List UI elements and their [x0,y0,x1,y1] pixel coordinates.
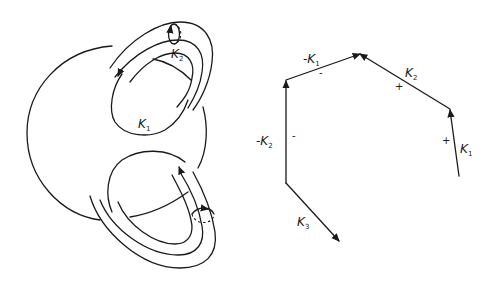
label-edge-k2: K2 [405,66,417,82]
lower-cross-curve [130,192,188,217]
k2-curve [153,59,191,80]
label-k1-left: K1 [138,117,150,133]
sign-edge-neg-k1: - [319,67,323,78]
sphere-right-segment [198,107,206,168]
knot-diagram-figure: K2 K1 K1 + K2 + -K1 - -K2 - K3 [0,0,492,289]
lower-handle-arrow [179,167,181,172]
sign-edge-k2: + [395,81,403,92]
edge-neg-k1 [286,54,360,80]
sign-edge-neg-k2: - [292,130,296,141]
edge-k2 [360,54,450,109]
label-k2-left: K2 [171,47,183,63]
sign-edge-k1: + [442,135,450,146]
lower-loop-boundary [108,151,185,212]
upper-handle-middle [115,40,203,108]
label-edge-neg-k2: -K2 [256,134,273,150]
label-edge-k3: K3 [297,215,309,231]
edge-k1 [450,110,459,176]
label-edge-neg-k1: -K1 [303,52,320,68]
upper-meridian-front [169,24,180,44]
lower-handle-outer [90,172,215,268]
lower-meridian-back [192,214,214,223]
lower-handle-inner [118,175,192,244]
sphere-outline [27,46,112,220]
label-edge-k1: K1 [460,142,472,158]
edge-k3 [286,183,339,241]
lower-handle-middle [100,172,203,255]
oriented-path-diagram [286,54,459,241]
surface-with-handles [27,22,215,268]
